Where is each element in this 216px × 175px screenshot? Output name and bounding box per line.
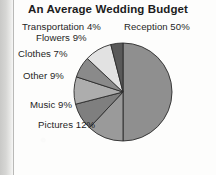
scan-edge-artifact [0,0,13,175]
page-title: An Average Wedding Budget [0,3,216,15]
slice-label-flowers: Flowers 9% [36,32,87,43]
chart-page: An Average Wedding Budget Transportation… [0,0,216,175]
slice-label-music: Music 9% [30,99,72,110]
slice-label-clothes: Clothes 7% [18,48,68,59]
slice-label-reception: Reception 50% [124,21,190,32]
slice-label-other: Other 9% [23,70,64,81]
scan-edge-line [13,0,14,175]
pie-slice-reception [123,43,172,141]
slice-label-pictures: Pictures 12% [38,119,95,130]
slice-label-transportation: Transportation 4% [22,21,101,32]
